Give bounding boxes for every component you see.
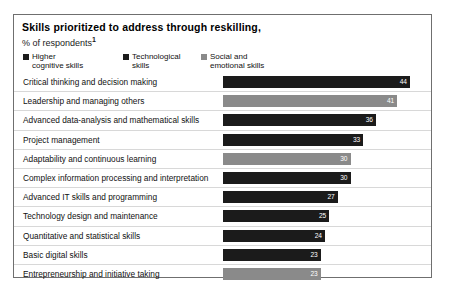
legend-item-higher-cognitive-skills: Higher cognitive skills <box>23 52 115 70</box>
bar-track: 41 <box>223 92 427 110</box>
bar-track: 44 <box>223 73 427 91</box>
bar: 44 <box>223 76 410 88</box>
bar-track: 30 <box>223 150 427 168</box>
legend-swatch-icon <box>201 54 207 60</box>
bar: 30 <box>223 153 351 165</box>
footnote-marker: 1 <box>92 36 96 43</box>
bar: 24 <box>223 230 325 242</box>
bar-track: 33 <box>223 131 427 149</box>
bar-value-label: 36 <box>366 116 376 124</box>
bar-track: 27 <box>223 188 427 206</box>
bar-track: 23 <box>223 265 427 283</box>
bar-category-label: Complex information processing and inter… <box>23 173 208 183</box>
bar-row: Adaptability and continuous learning30 <box>14 149 431 168</box>
bar-row: Entrepreneurship and initiative taking23 <box>14 264 431 283</box>
bar-value-label: 23 <box>310 270 320 278</box>
bar: 33 <box>223 134 363 146</box>
legend-label: Technological skills <box>132 52 180 70</box>
exhibit-frame: Skills prioritized to address through re… <box>13 14 432 278</box>
bar-row: Basic digital skills23 <box>14 245 431 264</box>
bar: 23 <box>223 249 321 261</box>
bar-row: Leadership and managing others41 <box>14 91 431 110</box>
bar-value-label: 24 <box>315 232 325 240</box>
bar-track: 25 <box>223 207 427 225</box>
bar: 25 <box>223 210 329 222</box>
bar-row: Advanced data-analysis and mathematical … <box>14 110 431 129</box>
bar-row: Project management33 <box>14 130 431 149</box>
bar-row: Critical thinking and decision making44 <box>14 73 431 91</box>
bar: 30 <box>223 172 351 184</box>
bar: 27 <box>223 191 338 203</box>
bar-category-label: Technology design and maintenance <box>23 211 158 221</box>
bar-track: 24 <box>223 227 427 245</box>
chart-title: Skills prioritized to address through re… <box>22 21 431 33</box>
bar-value-label: 44 <box>400 78 410 86</box>
bar-category-label: Advanced IT skills and programming <box>23 192 157 202</box>
bar: 41 <box>223 95 397 107</box>
bar-category-label: Advanced data-analysis and mathematical … <box>23 115 199 125</box>
bar-category-label: Adaptability and continuous learning <box>23 154 156 164</box>
chart-legend: Higher cognitive skills Technological sk… <box>22 52 431 70</box>
bar-category-label: Critical thinking and decision making <box>23 77 157 87</box>
bar-row: Quantitative and statistical skills24 <box>14 226 431 245</box>
bar-value-label: 30 <box>340 155 350 163</box>
bar: 36 <box>223 114 376 126</box>
chart-subtitle-text: % of respondents <box>22 38 92 48</box>
bar-category-label: Leadership and managing others <box>23 96 144 106</box>
bar-value-label: 27 <box>327 193 337 201</box>
bar-category-label: Basic digital skills <box>23 250 88 260</box>
bar-track: 36 <box>223 111 427 129</box>
bar-value-label: 23 <box>310 251 320 259</box>
bar-value-label: 33 <box>353 136 363 144</box>
legend-item-technological-skills: Technological skills <box>123 52 193 70</box>
bar-row: Technology design and maintenance25 <box>14 206 431 225</box>
bar-value-label: 25 <box>319 212 329 220</box>
bar: 23 <box>223 268 321 280</box>
bar-track: 30 <box>223 169 427 187</box>
bar-category-label: Project management <box>23 135 100 145</box>
bar-row: Complex information processing and inter… <box>14 168 431 187</box>
chart-header: Skills prioritized to address through re… <box>14 15 431 70</box>
legend-swatch-icon <box>23 54 29 60</box>
bar-track: 23 <box>223 246 427 264</box>
legend-item-social-and-emotional-skills: Social and emotional skills <box>201 52 296 70</box>
chart-subtitle: % of respondents1 <box>22 34 431 49</box>
bar-value-label: 30 <box>340 174 350 182</box>
bar-category-label: Entrepreneurship and initiative taking <box>23 269 160 279</box>
legend-label: Higher cognitive skills <box>32 52 83 70</box>
legend-label: Social and emotional skills <box>210 52 264 70</box>
legend-swatch-icon <box>123 54 129 60</box>
bar-value-label: 41 <box>387 97 397 105</box>
bar-chart-plot-area: Critical thinking and decision making44L… <box>14 73 431 283</box>
bar-category-label: Quantitative and statistical skills <box>23 231 140 241</box>
bar-row: Advanced IT skills and programming27 <box>14 187 431 206</box>
